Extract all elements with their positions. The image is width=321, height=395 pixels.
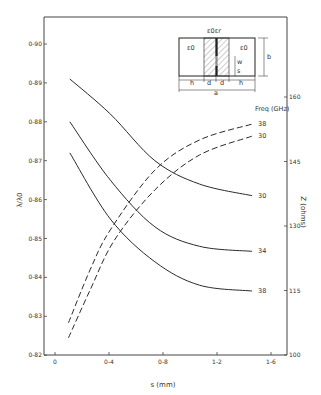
y-tick-label: 0-90 (28, 40, 42, 47)
x-tick-label: 0 (53, 358, 57, 365)
y-tick-label: 0-83 (28, 312, 42, 319)
inset-label-eps0-left: ε0 (187, 44, 195, 52)
inset-label-a: a (214, 89, 218, 97)
inset-label-h-left: h (190, 79, 194, 87)
y-tick-label: 0-89 (28, 79, 42, 86)
plot-frame (44, 17, 287, 355)
x-tick-label: 1-2 (212, 358, 222, 365)
y-tick-label: 0-86 (28, 196, 42, 203)
wavelength-curve-30ghz (70, 79, 252, 196)
wavelength-curve-34ghz (70, 122, 252, 252)
inset-label-eps0-right: ε0 (240, 44, 248, 52)
inset-label-b: b (267, 53, 271, 61)
y2-tick-label: 100 (289, 351, 301, 358)
inset-label-w: w (237, 58, 243, 66)
wavelength-curve-38ghz (70, 153, 252, 291)
curves (69, 79, 253, 338)
inset-label-d-right: d (220, 79, 224, 87)
impedance-curve-38ghz (69, 124, 253, 323)
inset-label-s: s (237, 67, 241, 75)
impedance-curve-30ghz (69, 136, 253, 338)
y2-tick-label: 145 (289, 158, 301, 165)
y-tick-label: 0-87 (28, 157, 42, 164)
plot-border (44, 17, 287, 355)
chart: 0-820-830-840-850-860-870-880-890-90 100… (0, 0, 321, 395)
right-axis-ticks: 100115130145160 (284, 93, 301, 358)
y2-tick-label: 130 (289, 222, 301, 229)
x-tick-label: 0-8 (158, 358, 168, 365)
inset-label-h-right: h (239, 79, 243, 87)
y-tick-label: 0-88 (28, 118, 42, 125)
series-label: 34 (258, 247, 266, 255)
y2-axis-label: Z (ohms) (299, 196, 307, 228)
x-tick-label: 1-6 (266, 358, 276, 365)
series-labels: 3034383830 (258, 120, 266, 295)
inset-label-d-left: d (207, 79, 211, 87)
y-axis-label: λ/λ0 (16, 192, 24, 207)
legend-title: Freq (GHz) (255, 105, 289, 113)
x-tick-label: 0-4 (104, 358, 114, 365)
series-label: 38 (258, 287, 266, 295)
y2-tick-label: 115 (289, 287, 301, 294)
series-label: 38 (258, 120, 266, 128)
series-label: 30 (258, 192, 266, 200)
bottom-axis-ticks: 00-40-81-21-6 (53, 352, 276, 365)
y-tick-label: 0-82 (28, 351, 42, 358)
inset-label-eps-r: ε0εr (207, 27, 221, 35)
y2-tick-label: 160 (289, 93, 301, 100)
y-tick-label: 0-85 (28, 235, 42, 242)
series-label: 30 (258, 132, 266, 140)
x-axis-label: s (mm) (151, 381, 176, 389)
y-tick-label: 0-84 (28, 273, 42, 280)
